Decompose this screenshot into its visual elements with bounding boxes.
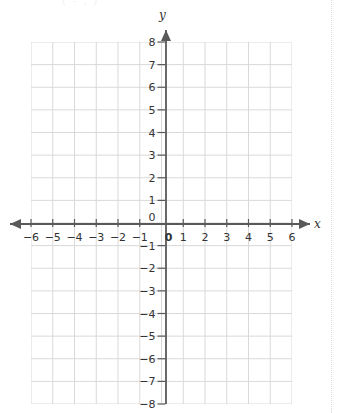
x-axis-left-arrow — [10, 219, 21, 229]
y-tick-label: 5 — [149, 103, 156, 116]
x-tick-label: 2 — [202, 231, 209, 244]
x-tick-label: −2 — [110, 231, 126, 244]
y-axis-label: y — [159, 8, 166, 22]
y-tick-label: −2 — [139, 262, 155, 275]
x-axis-right-arrow — [299, 219, 310, 229]
x-tick-label: −6 — [23, 231, 39, 244]
y-tick-label: 6 — [149, 81, 156, 94]
y-tick-label: 2 — [149, 171, 156, 184]
coordinate-plane-figure: ( - , ) −6−5−4−3−2−10123456 876543210−1−… — [0, 0, 337, 413]
x-tick-label: 1 — [180, 231, 187, 244]
y-axis-ticks — [158, 42, 166, 404]
y-tick-label: −7 — [139, 375, 155, 388]
y-tick-label: 7 — [149, 58, 156, 71]
y-tick-label: 1 — [149, 194, 156, 207]
y-tick-label: −5 — [139, 330, 155, 343]
x-axis-label: x — [314, 217, 321, 231]
y-tick-label: −4 — [139, 307, 155, 320]
x-tick-label: 4 — [245, 231, 252, 244]
y-tick-label: −3 — [139, 284, 155, 297]
x-tick-label: −5 — [45, 231, 61, 244]
x-tick-label: 3 — [223, 231, 230, 244]
y-tick-label: −6 — [139, 352, 155, 365]
axes-layer — [0, 0, 337, 413]
x-tick-label: 6 — [289, 231, 296, 244]
y-tick-label: 4 — [149, 126, 156, 139]
x-tick-label: 0 — [165, 231, 173, 244]
y-tick-label: 3 — [149, 149, 156, 162]
y-tick-label: −1 — [139, 239, 155, 252]
x-tick-label: −3 — [88, 231, 104, 244]
x-tick-label: 5 — [267, 231, 274, 244]
y-tick-label: −8 — [139, 398, 155, 411]
x-tick-label: −4 — [66, 231, 82, 244]
y-axis-up-arrow — [161, 30, 171, 41]
y-tick-label: 0 — [149, 211, 156, 224]
y-tick-label: 8 — [149, 36, 156, 49]
x-axis-ticks — [31, 219, 292, 227]
